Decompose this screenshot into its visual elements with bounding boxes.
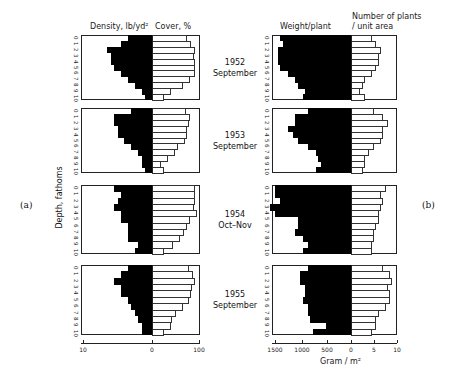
depth-tick: 0 [264,109,270,113]
depth-tick: 4 [264,211,270,215]
number-bar [351,94,365,101]
depth-tick: 6 [73,71,79,75]
weight-header: Weight/plant [280,22,331,31]
density-bar [142,329,152,336]
depth-tick: 10 [73,95,79,102]
depth-tick: 9 [264,162,270,166]
cover-bar [152,248,164,255]
depth-tick: 0 [73,266,79,270]
depth-tick: 4 [73,60,79,64]
depth-tick: 3 [264,54,270,58]
depth-tick: 6 [264,224,270,228]
date-label: 1955 September [213,289,257,311]
date-label: 1952 September [213,57,257,79]
depth-tick: 0 [264,266,270,270]
depth-tick: 2 [264,121,270,125]
depth-tick: 3 [73,205,79,209]
weight-bar [303,94,351,100]
depth-tick: 10 [73,330,79,337]
depth-tick: 0 [264,36,270,40]
depth-tick: 1 [73,115,79,119]
depth-tick: 10 [264,168,270,175]
weight-bar [316,167,351,173]
depth-tick: 10 [264,330,270,337]
depth-tick: 10 [73,249,79,256]
depth-tick: 8 [264,156,270,160]
depth-tick: 9 [73,242,79,246]
depth-tick: 7 [264,77,270,81]
date-label: 1953 September [213,130,257,152]
x-tick [351,340,352,343]
depth-tick: 8 [264,83,270,87]
left-x-axis [81,343,200,344]
depth-tick: 9 [264,89,270,93]
depth-tick: 5 [264,217,270,221]
depth-tick: 2 [264,279,270,283]
right-x-axis [272,343,397,344]
depth-tick: 8 [73,83,79,87]
depth-tick: 9 [73,323,79,327]
number-header-line1: Number of plants [352,12,422,21]
density-bar [135,248,152,255]
depth-tick: 8 [73,156,79,160]
x-tick [83,340,84,343]
depth-tick: 1 [73,42,79,46]
depth-tick: 3 [264,127,270,131]
depth-tick: 10 [264,249,270,256]
weight-bar [303,248,351,255]
center-line [351,265,352,335]
depth-tick: 5 [264,66,270,70]
depth-tick: 7 [73,230,79,234]
depth-tick: 4 [73,211,79,215]
depth-tick: 4 [73,291,79,295]
depth-tick: 5 [73,66,79,70]
depth-tick: 7 [264,150,270,154]
y-axis-label: Depth, fathoms [55,166,64,228]
x-tick [275,340,276,343]
right-x-label: Gram / m² [320,357,361,366]
depth-tick: 9 [264,323,270,327]
depth-tick: 6 [264,304,270,308]
center-line [152,35,153,100]
x-tick-label: 0 [150,346,154,353]
depth-tick: 7 [264,311,270,315]
x-tick [374,340,375,343]
depth-tick: 2 [73,279,79,283]
density-header: Density, lb/yd² [90,22,149,31]
depth-tick: 1 [73,192,79,196]
depth-tick: 1 [264,115,270,119]
number-bar [351,248,372,255]
panel-b-label: (b) [422,200,435,210]
depth-tick: 6 [73,304,79,308]
depth-tick: 4 [264,133,270,137]
depth-tick: 8 [73,317,79,321]
depth-tick: 8 [264,317,270,321]
center-line [351,185,352,254]
depth-tick: 7 [264,230,270,234]
depth-tick: 1 [73,272,79,276]
x-tick-label: 10 [79,346,87,353]
cover-bar [152,167,164,174]
depth-tick: 7 [73,150,79,154]
weight-bar [313,329,351,336]
depth-tick: 1 [264,192,270,196]
depth-tick: 0 [73,186,79,190]
depth-tick: 1 [264,272,270,276]
depth-tick: 6 [73,224,79,228]
depth-tick: 3 [264,205,270,209]
depth-tick: 2 [73,121,79,125]
center-line [152,265,153,335]
depth-tick: 5 [73,298,79,302]
depth-tick: 1 [264,42,270,46]
center-line [152,185,153,254]
x-tick [152,340,153,343]
depth-tick: 3 [73,54,79,58]
depth-tick: 3 [73,285,79,289]
x-tick [199,340,200,343]
number-header-line2: / unit area [352,22,393,31]
depth-tick: 4 [264,291,270,295]
depth-tick: 9 [73,162,79,166]
depth-tick: 6 [73,144,79,148]
center-line [152,108,153,173]
depth-tick: 5 [264,298,270,302]
